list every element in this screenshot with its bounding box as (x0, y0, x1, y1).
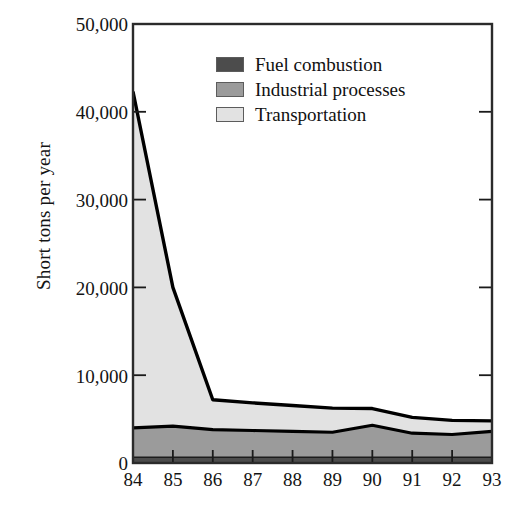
x-tick-label-91: 91 (390, 469, 434, 491)
x-axis-tick-labels: 84858687888990919293 (0, 469, 525, 499)
chart-legend: Fuel combustion Industrial processes Tra… (216, 52, 466, 127)
x-tick-label-93: 93 (470, 469, 514, 491)
x-tick-label-92: 92 (430, 469, 474, 491)
legend-label-transportation: Transportation (255, 105, 366, 124)
x-tick-label-90: 90 (350, 469, 394, 491)
legend-swatch-fuel-combustion (216, 57, 244, 72)
x-tick-label-86: 86 (191, 469, 235, 491)
x-tick-label-87: 87 (231, 469, 275, 491)
series-areas (133, 92, 492, 463)
x-tick-label-88: 88 (271, 469, 315, 491)
legend-item-industrial-processes: Industrial processes (216, 77, 466, 102)
legend-item-fuel-combustion: Fuel combustion (216, 52, 466, 77)
x-tick-label-85: 85 (151, 469, 195, 491)
x-tick-label-84: 84 (111, 469, 155, 491)
legend-label-industrial-processes: Industrial processes (255, 80, 405, 99)
legend-label-fuel-combustion: Fuel combustion (255, 55, 382, 74)
legend-swatch-transportation (216, 107, 244, 122)
x-tick-label-89: 89 (310, 469, 354, 491)
legend-swatch-industrial-processes (216, 82, 244, 97)
stacked-area-chart: Short tons per year 50,000 40,000 30,000… (0, 0, 525, 515)
legend-item-transportation: Transportation (216, 102, 466, 127)
